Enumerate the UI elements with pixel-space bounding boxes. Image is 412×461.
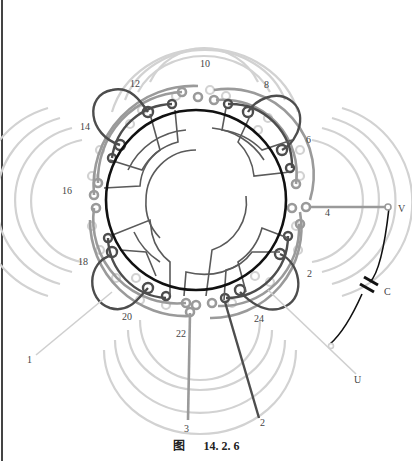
coil-label-12: 12 — [130, 78, 140, 89]
coil-label-14: 14 — [80, 121, 90, 132]
light-coil-group — [0, 48, 412, 434]
figure-number: 14. 2. 6 — [204, 439, 240, 454]
coil-label-2: 2 — [307, 268, 312, 279]
coil-label-6: 6 — [306, 134, 311, 145]
coil-label-10: 10 — [200, 58, 210, 69]
coil-label-20: 20 — [122, 311, 132, 322]
coil-label-24: 24 — [254, 313, 264, 324]
coil-label-4: 4 — [325, 207, 330, 218]
coil-label-22: 22 — [176, 328, 186, 339]
light-leads — [36, 290, 356, 374]
coil-label-18: 18 — [78, 256, 88, 267]
lead-label-c: C — [384, 286, 391, 297]
figure-prefix: 图 — [173, 436, 185, 454]
stator-ring — [106, 110, 286, 290]
capacitor-branch — [329, 204, 392, 349]
lead-label-u: U — [354, 374, 362, 385]
winding-diagram: 10 8 12 6 14 16 4 18 2 20 24 22 V C U 1 … — [0, 0, 412, 461]
coil-label-8: 8 — [264, 79, 269, 90]
figure-caption: 图 14. 2. 6 — [0, 436, 412, 454]
lead-label-v: V — [398, 203, 406, 214]
coil-label-16: 16 — [62, 185, 72, 196]
lead-label-1: 1 — [27, 354, 32, 365]
lead-label-3: 3 — [184, 423, 189, 434]
lead-label-2: 2 — [260, 417, 265, 428]
